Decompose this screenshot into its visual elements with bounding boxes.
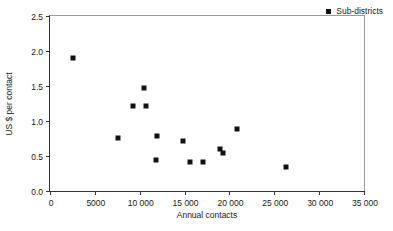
y-axis-title: US $ per contact — [2, 15, 16, 192]
y-tick-label: 2.5 — [31, 12, 43, 22]
data-point — [283, 164, 288, 169]
data-point — [154, 133, 159, 138]
x-axis-title: Annual contacts — [49, 210, 365, 220]
y-tick-label: 1.0 — [31, 117, 43, 127]
x-tick: 5000 — [95, 191, 96, 195]
x-tick: 15 000 — [185, 191, 186, 195]
data-points-layer — [50, 16, 364, 191]
data-point — [234, 127, 239, 132]
y-tick-label: 1.5 — [31, 82, 43, 92]
data-point — [142, 86, 147, 91]
legend-square-marker-icon — [326, 9, 331, 14]
data-point — [180, 138, 185, 143]
data-point — [201, 159, 206, 164]
x-tick-label: 35 000 — [352, 198, 378, 208]
x-tick: 0 — [50, 191, 51, 195]
plot-area: 0.00.51.01.52.02.5 0500010 00015 00020 0… — [49, 15, 365, 192]
x-tick-label: 10 000 — [128, 198, 154, 208]
data-point — [116, 135, 121, 140]
data-point — [221, 150, 226, 155]
y-tick-label: 0.5 — [31, 152, 43, 162]
y-tick-label: 0.0 — [31, 187, 43, 197]
data-point — [143, 104, 148, 109]
data-point — [187, 159, 192, 164]
x-tick-label: 15 000 — [173, 198, 199, 208]
x-tick-label: 30 000 — [307, 198, 333, 208]
x-tick: 25 000 — [274, 191, 275, 195]
y-tick-label: 2.0 — [31, 47, 43, 57]
x-tick-label: 20 000 — [217, 198, 243, 208]
data-point — [71, 56, 76, 61]
x-tick-label: 0 — [49, 198, 54, 208]
x-tick: 10 000 — [140, 191, 141, 195]
x-tick-label: 25 000 — [262, 198, 288, 208]
data-point — [153, 158, 158, 163]
data-point — [130, 104, 135, 109]
x-tick: 35 000 — [364, 191, 365, 195]
x-tick: 20 000 — [229, 191, 230, 195]
scatter-chart-figure: Sub-districts 0.00.51.01.52.02.5 0500010… — [0, 0, 393, 231]
x-tick-label: 5000 — [86, 198, 105, 208]
x-tick: 30 000 — [319, 191, 320, 195]
